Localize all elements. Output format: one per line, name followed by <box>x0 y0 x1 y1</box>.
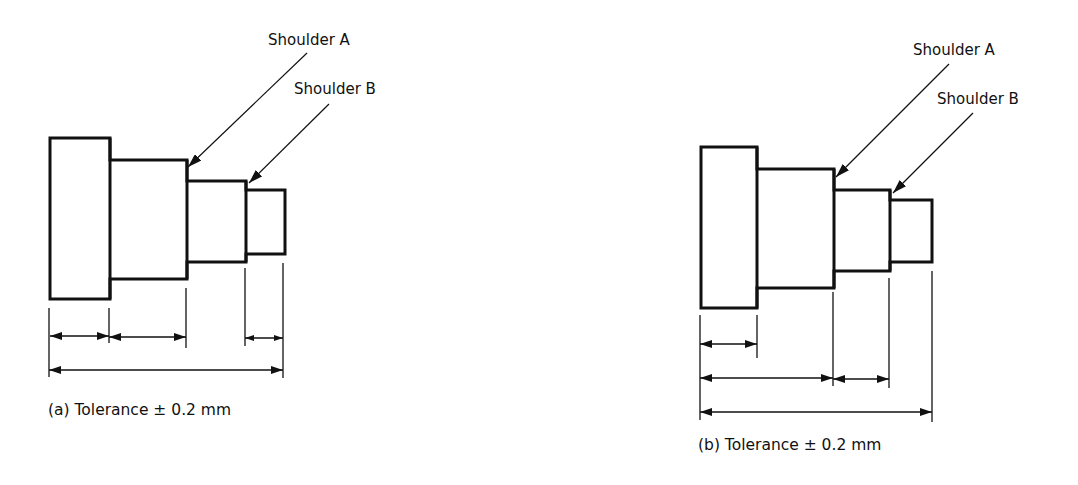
shoulder-b-label: Shoulder B <box>937 90 1019 108</box>
leader-line <box>836 64 949 177</box>
shaft-tolerance-diagram: Shoulder AShoulder B(a) Tolerance ± 0.2 … <box>0 0 1078 485</box>
leader-line <box>249 104 329 183</box>
shoulder-b-label: Shoulder B <box>294 80 376 98</box>
leader-line <box>893 113 973 193</box>
shoulder-a-label: Shoulder A <box>913 41 996 59</box>
shoulder-a-label: Shoulder A <box>268 31 351 49</box>
leader-line <box>188 53 307 167</box>
stepped-shaft-outline <box>50 138 285 299</box>
figure-caption: (a) Tolerance ± 0.2 mm <box>48 401 231 419</box>
figure-b: Shoulder AShoulder B(b) Tolerance ± 0.2 … <box>698 41 1019 454</box>
figure-a: Shoulder AShoulder B(a) Tolerance ± 0.2 … <box>48 31 376 419</box>
figure-caption: (b) Tolerance ± 0.2 mm <box>698 436 881 454</box>
stepped-shaft-outline <box>701 147 932 308</box>
